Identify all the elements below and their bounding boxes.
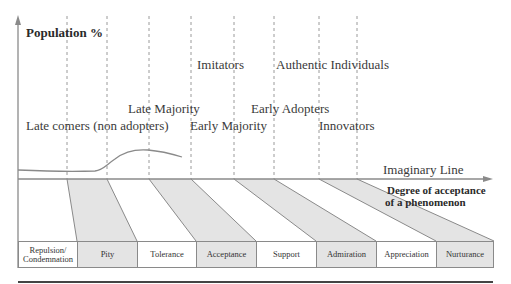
y-axis-arrow-icon <box>15 15 21 25</box>
x-axis-arrow-icon <box>483 176 493 182</box>
imaginary-line-label: Imaginary Line <box>383 162 464 178</box>
stage-box-appreciation: Appreciation <box>376 241 436 268</box>
label-early-adopters: Early Adopters <box>251 101 329 117</box>
dashed-dividers <box>67 16 357 179</box>
stage-box-acceptance: Acceptance <box>196 241 256 268</box>
trapezoid-pity <box>67 179 137 241</box>
label-imitators: Imitators <box>197 57 244 73</box>
stage-label: Tolerance <box>150 250 183 259</box>
label-late-majority: Late Majority <box>128 101 200 117</box>
adoption-curve <box>18 150 182 172</box>
stage-label-line2: Condemnation <box>23 255 73 264</box>
label-innovators: Innovators <box>319 118 375 134</box>
acceptance-stages-row: Repulsion/Condemnation Pity Tolerance Ac… <box>18 241 494 268</box>
acceptance-diagram: Population % Imaginary Line Degree of ac… <box>0 0 511 284</box>
label-authentic-individuals: Authentic Individuals <box>276 57 389 73</box>
label-early-majority: Early Majority <box>190 118 267 134</box>
stage-box-repulsion: Repulsion/Condemnation <box>18 241 77 268</box>
stage-box-nurturance: Nurturance <box>436 241 494 268</box>
stage-label: Admiration <box>327 250 366 259</box>
y-axis-title: Population % <box>26 25 103 41</box>
stage-box-pity: Pity <box>77 241 137 268</box>
stage-label: Support <box>273 250 300 259</box>
stage-label: Pity <box>101 250 115 259</box>
label-late-comers: Late comers (non adopters) <box>26 118 169 134</box>
stage-label: Acceptance <box>207 250 247 259</box>
stage-box-admiration: Admiration <box>316 241 376 268</box>
x-axis-title-line2: of a phenomenon <box>385 196 466 208</box>
trapezoid-acceptance <box>149 179 256 241</box>
stage-box-tolerance: Tolerance <box>137 241 196 268</box>
stage-box-support: Support <box>256 241 316 268</box>
stage-label: Appreciation <box>384 250 428 259</box>
x-axis-title-line1: Degree of acceptance <box>387 184 486 196</box>
stage-label: Nurturance <box>446 250 484 259</box>
